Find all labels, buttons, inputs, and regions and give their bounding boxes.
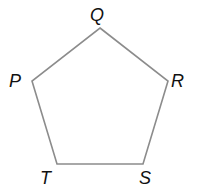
vertex-label-p: P — [9, 71, 21, 91]
vertex-label-r: R — [171, 71, 184, 91]
vertex-label-s: S — [139, 168, 151, 187]
pentagon-pqrst — [32, 28, 168, 164]
pentagon-diagram: Q R S T P — [0, 0, 197, 187]
vertex-labels: Q R S T P — [9, 5, 184, 187]
vertex-label-t: T — [40, 168, 53, 187]
vertex-label-q: Q — [90, 5, 104, 25]
